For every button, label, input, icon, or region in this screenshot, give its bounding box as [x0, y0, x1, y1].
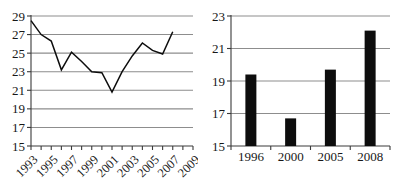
xtick-label-2005: 2005: [317, 149, 343, 164]
line-chart-x-tick-labels: 199319951997199920012003200520072009: [13, 153, 198, 181]
bar-chart-svg: 1517192123 1996200020052008: [198, 0, 396, 188]
ytick-label-23: 23: [12, 64, 25, 79]
line-chart-series: [31, 21, 173, 93]
bar-2005: [325, 70, 336, 146]
line-chart-y-tick-marks: [27, 16, 31, 146]
ytick-label-23: 23: [212, 9, 225, 24]
ytick-label-21: 21: [12, 83, 25, 98]
bar-chart-y-tick-marks: [227, 16, 231, 146]
ytick-label-29: 29: [12, 9, 25, 24]
two-panel-figure: 1517192123252729 19931995199719992001200…: [0, 0, 396, 188]
line-chart-panel: 1517192123252729 19931995199719992001200…: [0, 0, 198, 188]
xtick-label-2008: 2008: [357, 149, 383, 164]
xtick-label-2009: 2009: [175, 153, 198, 181]
bar-2000: [285, 118, 296, 146]
ytick-label-21: 21: [212, 41, 225, 56]
ytick-label-17: 17: [12, 120, 26, 135]
ytick-label-27: 27: [12, 27, 26, 42]
line-chart-svg: 1517192123252729 19931995199719992001200…: [0, 0, 198, 188]
bar-chart-x-tick-labels: 1996200020052008: [238, 149, 383, 164]
bar-chart-y-tick-labels: 1517192123: [212, 9, 226, 154]
ytick-label-17: 17: [212, 106, 226, 121]
ytick-label-15: 15: [12, 139, 25, 154]
xtick-label-2000: 2000: [278, 149, 304, 164]
bar-1996: [245, 75, 256, 147]
ytick-label-25: 25: [12, 46, 25, 61]
ytick-label-19: 19: [212, 74, 225, 89]
line-chart-y-tick-labels: 1517192123252729: [12, 9, 26, 154]
line-chart-x-tick-marks: [31, 146, 193, 150]
ytick-label-15: 15: [212, 139, 225, 154]
ytick-label-19: 19: [12, 101, 25, 116]
bar-chart-panel: 1517192123 1996200020052008: [198, 0, 396, 188]
line-chart-gridlines: [31, 16, 193, 127]
bar-chart-bars: [245, 31, 375, 146]
bar-2008: [365, 31, 376, 146]
xtick-label-1996: 1996: [238, 149, 265, 164]
